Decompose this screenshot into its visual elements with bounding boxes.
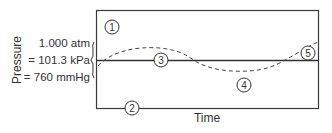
brace-icon xyxy=(91,42,94,78)
marker-5: 5 xyxy=(301,46,315,60)
reference-atm-label: 1.000 atm xyxy=(39,37,90,49)
marker-2: 2 xyxy=(125,101,139,115)
y-axis-label: Pressure xyxy=(10,36,24,84)
marker-3-label: 3 xyxy=(158,55,164,66)
marker-3: 3 xyxy=(154,53,168,67)
pressure-time-diagram: Pressure 1.000 atm = 101.3 kPa = 760 mmH… xyxy=(0,0,332,133)
marker-4: 4 xyxy=(237,78,251,92)
marker-1: 1 xyxy=(105,20,119,34)
marker-5-label: 5 xyxy=(305,48,311,59)
reference-kpa-label: = 101.3 kPa xyxy=(28,54,90,66)
pressure-fluctuation-curve xyxy=(98,42,318,71)
marker-1-label: 1 xyxy=(109,22,115,33)
marker-2-label: 2 xyxy=(129,103,135,114)
x-axis-label: Time xyxy=(194,111,221,125)
marker-4-label: 4 xyxy=(241,80,247,91)
reference-mmhg-label: = 760 mmHg xyxy=(24,71,90,83)
